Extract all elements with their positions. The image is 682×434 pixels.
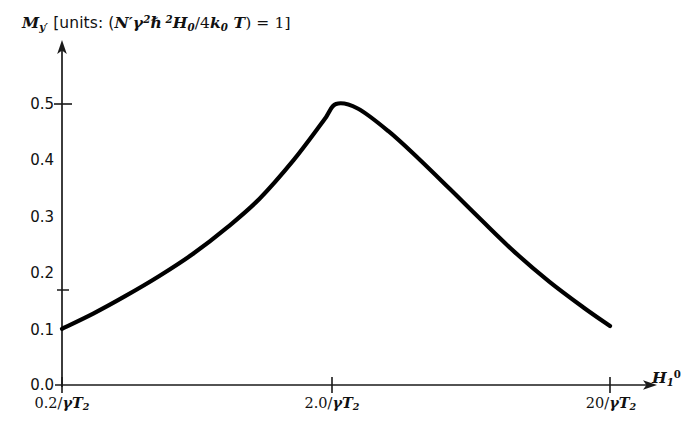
chart-figure: My′ [units: (N′γ2ℏ 2H0/4k0 T) = 1] 0.5 0… [0, 0, 682, 434]
data-curve [62, 103, 610, 329]
plot-area [0, 0, 682, 434]
